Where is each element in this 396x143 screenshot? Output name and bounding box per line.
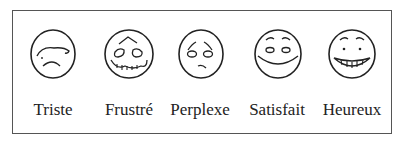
- frustrated-face-icon: [103, 28, 155, 84]
- sad-face-icon: [28, 28, 78, 84]
- label-heureux: Heureux: [312, 100, 392, 120]
- label-satisfait: Satisfait: [237, 100, 317, 120]
- perplexed-face-icon: [176, 28, 226, 84]
- label-triste: Triste: [13, 100, 93, 120]
- label-frustre: Frustré: [89, 100, 169, 120]
- label-perplexe: Perplexe: [160, 100, 240, 120]
- satisfied-face-icon: [252, 28, 304, 84]
- happy-face-icon: [326, 28, 378, 84]
